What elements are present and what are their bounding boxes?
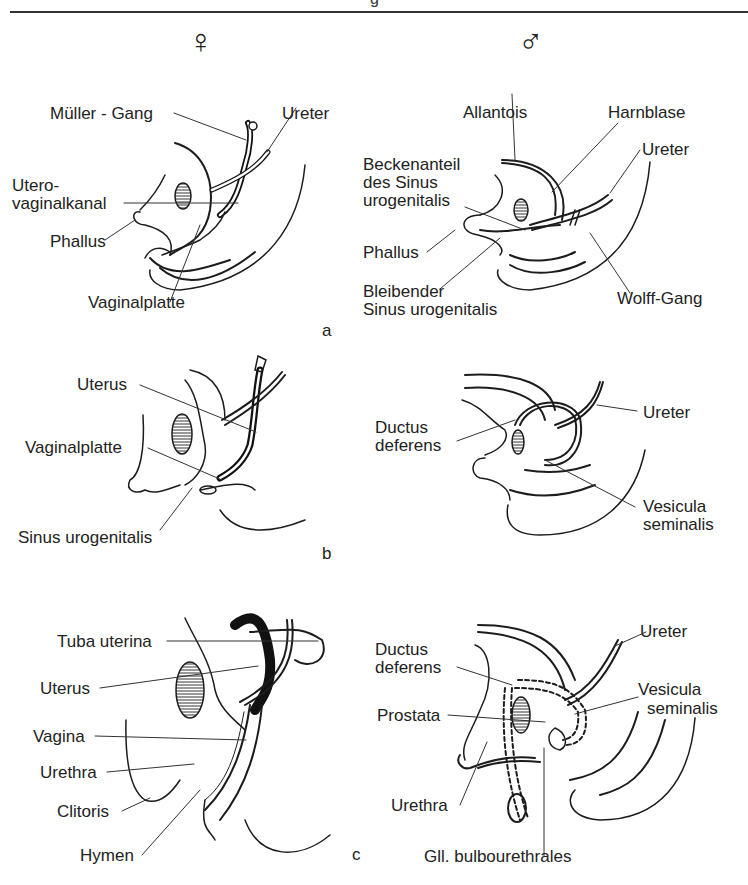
label-phallus: Phallus [363, 243, 419, 262]
diagram-b-female [129, 356, 305, 530]
diagram-c-male [458, 625, 695, 822]
label-phallus: Phallus [50, 232, 106, 251]
label-beckenanteil: Beckenanteil [363, 155, 460, 174]
label-vaginalkanal: vaginalkanal [12, 194, 107, 213]
label-gll-bulbourethrales: Gll. bulbourethrales [424, 847, 571, 866]
panel-letter-a: a [322, 321, 331, 341]
label-sinus-urogenitalis: Sinus urogenitalis [18, 528, 152, 547]
label-ureter: Ureter [642, 140, 689, 159]
label-seminalis: seminalis [643, 515, 714, 534]
label-vesicula: Vesicula [643, 497, 706, 516]
label-urogenitalis: urogenitalis [363, 191, 450, 210]
label-sinus-urogenitalis: Sinus urogenitalis [363, 300, 497, 319]
diagram-c-female [126, 618, 330, 852]
label-uterus: Uterus [40, 679, 90, 698]
label-hymen: Hymen [80, 846, 134, 865]
label-ureter: Ureter [282, 104, 329, 123]
label-deferens: deferens [375, 658, 441, 677]
label-vagina: Vagina [33, 727, 85, 746]
label-allantois: Allantois [463, 103, 527, 122]
label-clitoris: Clitoris [57, 802, 109, 821]
label-prostata: Prostata [377, 706, 440, 725]
label-utero: Utero- [12, 176, 59, 195]
label-des-sinus: des Sinus [363, 173, 438, 192]
label-bleibender: Bleibender [363, 282, 444, 301]
label-wolff-gang: Wolff-Gang [617, 289, 702, 308]
diagram-a-female [134, 122, 305, 290]
panel-letter-b: b [322, 544, 331, 564]
label-uterus: Uterus [77, 375, 127, 394]
label-seminalis: seminalis [647, 699, 718, 718]
diagram-a-male [464, 160, 650, 290]
label-urethra: Urethra [40, 763, 97, 782]
label-vaginalplatte: Vaginalplatte [88, 293, 185, 312]
label-deferens: deferens [375, 436, 441, 455]
panel-letter-c: c [352, 845, 361, 865]
label-tuba-uterina: Tuba uterina [57, 632, 152, 651]
label-ductus: Ductus [375, 418, 428, 437]
label-ductus: Ductus [375, 640, 428, 659]
label-urethra: Urethra [391, 796, 448, 815]
label-ureter: Ureter [643, 403, 690, 422]
label-ureter: Ureter [640, 622, 687, 641]
label-vaginalplatte: Vaginalplatte [25, 438, 122, 457]
label-vesicula: Vesicula [638, 680, 701, 699]
label-harnblase: Harnblase [608, 103, 686, 122]
diagram-b-male [462, 375, 645, 535]
label-mueller-gang: Müller - Gang [50, 104, 153, 123]
